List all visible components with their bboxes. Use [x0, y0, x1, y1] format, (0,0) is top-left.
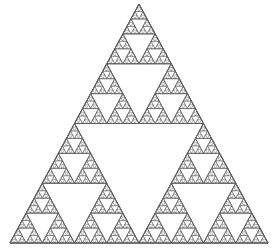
fractal-canvas — [0, 0, 273, 248]
sierpinski-triangle-figure — [0, 0, 273, 248]
